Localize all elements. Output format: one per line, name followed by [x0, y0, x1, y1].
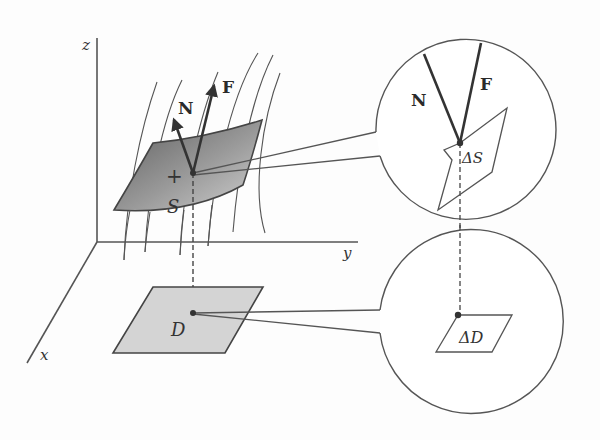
zoom-field-label: F: [480, 74, 492, 94]
y-axis-label: y: [342, 244, 352, 262]
diagram-canvas: + S N F D z y x: [0, 0, 600, 440]
region-point: [190, 310, 196, 316]
normal-label: N: [178, 98, 194, 118]
surface-label: S: [167, 196, 179, 217]
zoom-normal-label: N: [411, 90, 427, 110]
region-label: D: [170, 319, 186, 340]
zoom-region-label: ΔD: [458, 328, 484, 347]
orientation-mark: +: [166, 164, 183, 188]
x-axis-label: x: [40, 346, 49, 364]
surface-point: [190, 170, 196, 176]
zoom-patch-label: ΔS: [461, 149, 483, 167]
field-label: F: [222, 77, 234, 97]
region-d: [113, 287, 263, 353]
flux-diagram: + S N F D z y x: [0, 0, 600, 440]
x-axis: [27, 242, 97, 363]
surface-s: [114, 120, 262, 211]
lower-zoom-circle: ΔD: [380, 225, 563, 414]
z-axis-label: z: [81, 36, 90, 54]
